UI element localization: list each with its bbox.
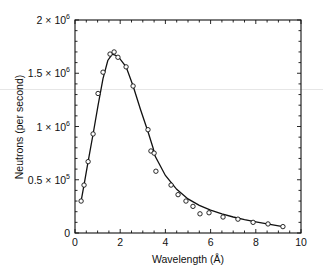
data-points: [79, 50, 285, 229]
data-point: [96, 91, 100, 95]
y-tick-label: 1.5 × 106: [28, 66, 70, 79]
data-point: [184, 199, 188, 203]
data-point: [116, 55, 120, 59]
data-point: [207, 211, 211, 215]
data-point: [169, 183, 173, 187]
x-tick-labels: 0246810: [72, 236, 307, 248]
data-point: [86, 159, 90, 163]
y-tick-label: 2 × 106: [37, 13, 71, 26]
data-point: [251, 220, 255, 224]
x-axis-title: Wavelength (Å): [152, 253, 224, 265]
y-tick-labels: 00.5 × 1051 × 1061.5 × 1062 × 106: [28, 13, 70, 239]
data-point: [176, 192, 180, 196]
data-point: [221, 215, 225, 219]
data-point: [281, 224, 285, 228]
data-point: [198, 212, 202, 216]
y-axis-title: Neutrons (per second): [13, 75, 25, 179]
data-point: [124, 65, 128, 69]
fit-curve: [81, 54, 283, 227]
x-tick-label: 10: [295, 236, 307, 248]
data-point: [266, 222, 270, 226]
data-point: [131, 84, 135, 88]
y-tick-label: 0.5 × 105: [28, 173, 70, 186]
data-point: [79, 199, 83, 203]
x-tick-label: 6: [208, 236, 214, 248]
y-tick-label: 1 × 106: [37, 120, 71, 133]
data-point: [146, 127, 150, 131]
neutron-spectrum-chart: 00.5 × 1051 × 1061.5 × 1062 × 106 024681…: [0, 0, 323, 277]
x-tick-label: 0: [72, 236, 78, 248]
data-point: [236, 217, 240, 221]
x-tick-label: 2: [117, 236, 123, 248]
data-point: [91, 132, 95, 136]
y-tick-label: 0: [64, 227, 70, 239]
data-point: [191, 204, 195, 208]
data-point: [154, 169, 158, 173]
x-tick-label: 4: [162, 236, 168, 248]
x-tick-label: 8: [253, 236, 259, 248]
data-point: [101, 70, 105, 74]
data-point: [82, 183, 86, 187]
data-point: [152, 151, 156, 155]
data-point: [112, 50, 116, 54]
